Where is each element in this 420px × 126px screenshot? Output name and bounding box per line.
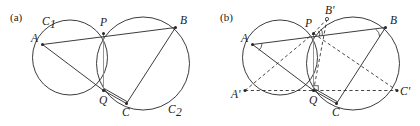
panel-b-label-C: C xyxy=(332,106,340,118)
panel-b-circle-C2 xyxy=(307,17,400,110)
panel-b-point-Q xyxy=(312,89,315,92)
panel-a-label-B: B xyxy=(180,14,187,26)
figure-canvas: (a) A P B Q C xyxy=(0,0,420,126)
panel-b-point-C xyxy=(335,102,338,105)
panel-a-label-C2-sub: 2 xyxy=(176,106,182,118)
panel-b-segment-Ap-P xyxy=(245,34,314,91)
panel-a-circle-C2 xyxy=(97,17,190,110)
panel-a-label-C: C xyxy=(122,106,130,118)
panel-b-point-B-prime xyxy=(325,17,328,20)
panel-a: (a) A P B Q C xyxy=(10,11,190,118)
panel-b-point-A xyxy=(251,43,254,46)
panel-b-label-B-prime: B' xyxy=(325,4,335,16)
panel-a-label-C1-sub: 1 xyxy=(50,18,56,30)
panel-a-label-C1-base: C xyxy=(42,15,50,27)
panel-b-label: (b) xyxy=(220,11,233,24)
panel-a-label-C1: C1 xyxy=(42,15,56,30)
panel-b-point-B xyxy=(384,26,387,29)
panel-b-segment-A-Q xyxy=(253,45,314,91)
panel-b-segment-Q-Bp xyxy=(314,19,328,91)
panel-b-label-Q: Q xyxy=(309,94,318,106)
panel-b-label-B: B xyxy=(390,14,397,26)
panel-a-label-C2-base: C xyxy=(168,103,176,115)
panel-a-label-P: P xyxy=(99,16,107,28)
panel-b-point-C-prime xyxy=(396,89,399,92)
geometry-figure: (a) A P B Q C xyxy=(0,0,420,126)
panel-a-segment-Q-C-parallel xyxy=(105,89,128,102)
panel-a-segment-B-C xyxy=(127,28,176,104)
panel-a-label-Q: Q xyxy=(99,94,108,106)
panel-a-point-B xyxy=(174,26,177,29)
panel-a-point-A xyxy=(41,43,44,46)
panel-b-label-A-prime: A' xyxy=(230,88,241,100)
panel-a-label-A: A xyxy=(30,32,39,44)
panel-b-point-A-prime xyxy=(244,89,247,92)
panel-b-segment-A-P-B xyxy=(253,28,386,45)
panel-b-angle-mark-B xyxy=(376,29,380,36)
panel-b-angle-mark-A xyxy=(259,44,262,51)
panel-a-point-Q xyxy=(102,89,105,92)
panel-a-circle-C1 xyxy=(33,20,108,95)
panel-a-label-C2: C2 xyxy=(168,103,182,118)
panel-b-segment-B-C xyxy=(337,28,386,104)
panel-b-label-A: A xyxy=(240,32,249,44)
panel-b-point-P xyxy=(312,32,315,35)
panel-a-point-C xyxy=(125,102,128,105)
panel-b-angle-mark-P-2 xyxy=(321,29,322,35)
panel-a-segment-A-P-B xyxy=(43,28,176,45)
panel-a-point-P xyxy=(102,32,105,35)
panel-a-segment-A-Q xyxy=(43,45,104,91)
panel-b-segment-P-Cp xyxy=(314,34,398,91)
panel-b: (b) xyxy=(220,4,411,118)
panel-b-label-C-prime: C' xyxy=(400,85,411,97)
panel-b-label-P: P xyxy=(304,17,312,29)
panel-a-label: (a) xyxy=(10,11,23,24)
panel-b-circle-C1 xyxy=(243,20,318,95)
